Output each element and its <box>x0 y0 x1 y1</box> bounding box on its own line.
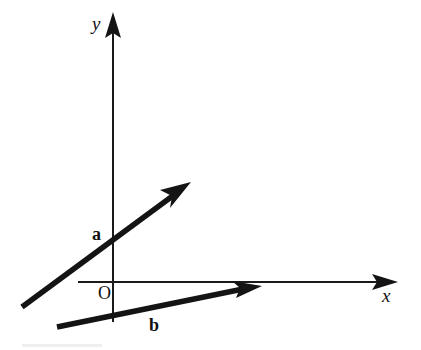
vector-diagram-canvas: y x O a b <box>0 0 421 350</box>
vector-a-label: a <box>92 224 101 244</box>
origin-label: O <box>98 283 111 303</box>
vector-diagram-figure: y x O a b <box>0 0 421 350</box>
x-axis-label: x <box>381 285 391 306</box>
scan-smudge <box>22 344 102 347</box>
vector-b-label: b <box>149 315 159 335</box>
y-axis-label: y <box>90 13 101 34</box>
